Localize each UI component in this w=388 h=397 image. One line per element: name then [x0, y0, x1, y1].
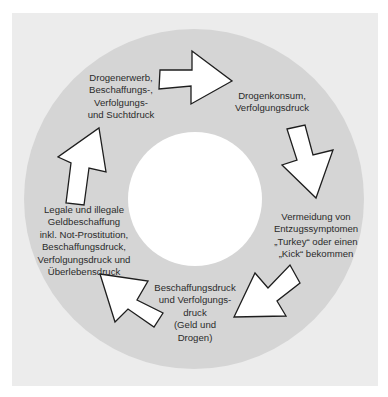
label-line: Drogenerwerb, [88, 72, 155, 84]
label-line: Verfolgungs- [88, 97, 155, 109]
cycle-diagram: Drogenerwerb, Beschaffungs-, Verfolgungs… [0, 0, 388, 397]
label-line: Verfolgungsdruck und [38, 254, 131, 266]
label-line: Beschaffungs-, [88, 84, 155, 96]
label-line: Überlebensdruck [38, 266, 131, 278]
label-line: „Kick“ bekommen [274, 248, 358, 260]
stage-label-vermeidung: Vermeidung von Entzugssymptomen „Turkey“… [274, 211, 358, 261]
label-line: Drogen) [154, 332, 235, 344]
stage-label-drogenerwerb: Drogenerwerb, Beschaffungs-, Verfolgungs… [88, 72, 155, 122]
stage-label-beschaffungsdruck: Beschaffungsdruck und Verfolgungs- druck… [154, 282, 235, 344]
label-line: druck [154, 307, 235, 319]
label-line: Entzugssymptomen [274, 223, 358, 235]
label-line: Beschaffungsdruck [154, 282, 235, 294]
label-line: Geldbeschaffung [38, 216, 131, 228]
label-line: und Verfolgungs- [154, 294, 235, 306]
stage-label-drogenkonsum: Drogenkonsum, Verfolgungsdruck [235, 90, 309, 115]
label-line: Beschaffungsdruck, [38, 241, 131, 253]
label-line: und Suchtdruck [88, 109, 155, 121]
label-line: Verfolgungsdruck [235, 102, 309, 114]
label-line: inkl. Not-Prostitution, [38, 229, 131, 241]
label-line: Drogenkonsum, [235, 90, 309, 102]
center-circle [128, 132, 262, 266]
label-line: Vermeidung von [274, 211, 358, 223]
label-line: (Geld und [154, 319, 235, 331]
label-line: Legale und illegale [38, 204, 131, 216]
label-line: „Turkey“ oder einen [274, 236, 358, 248]
stage-label-geldbeschaffung: Legale und illegale Geldbeschaffung inkl… [38, 204, 131, 278]
